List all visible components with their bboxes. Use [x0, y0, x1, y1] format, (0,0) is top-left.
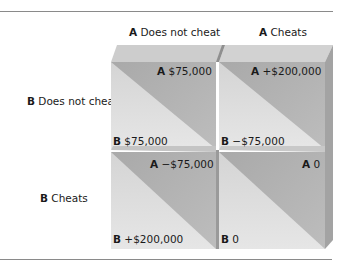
- bevel-top-right: [219, 45, 333, 62]
- payoff-value: +$200,000: [124, 233, 183, 245]
- player-label: B: [221, 233, 229, 245]
- payoff-b-cell-1-0: B +$200,000: [113, 233, 183, 245]
- player-label: B: [113, 135, 121, 147]
- player-label: A: [251, 65, 259, 77]
- payoff-a-cell-1-0: A −$75,000: [150, 158, 214, 170]
- player-label: A: [157, 65, 165, 77]
- player-label: B: [113, 233, 121, 245]
- payoff-a-cell-0-1: A +$200,000: [251, 65, 321, 77]
- column-divider: [216, 150, 219, 249]
- payoff-value: 0: [232, 233, 239, 245]
- bevel-top-left: [111, 45, 225, 62]
- bottom-rule: [0, 259, 332, 260]
- payoff-a-cell-0-0: A $75,000: [157, 65, 212, 77]
- payoff-b-cell-1-1: B 0: [221, 233, 239, 245]
- player-label: A: [302, 158, 310, 170]
- player-label: A: [150, 158, 158, 170]
- payoff-b-cell-0-0: B $75,000: [113, 135, 168, 147]
- payoff-value: +$200,000: [262, 65, 321, 77]
- payoff-b-cell-0-1: B −$75,000: [221, 135, 285, 147]
- payoff-value: 0: [313, 158, 320, 170]
- payoff-value: $75,000: [168, 65, 211, 77]
- bevel-right-side: [325, 45, 333, 249]
- payoff-value: −$75,000: [161, 158, 213, 170]
- payoff-value: −$75,000: [232, 135, 284, 147]
- payoff-matrix-graphic: [0, 0, 349, 269]
- player-label: B: [221, 135, 229, 147]
- payoff-a-cell-1-1: A 0: [302, 158, 320, 170]
- payoff-value: $75,000: [124, 135, 167, 147]
